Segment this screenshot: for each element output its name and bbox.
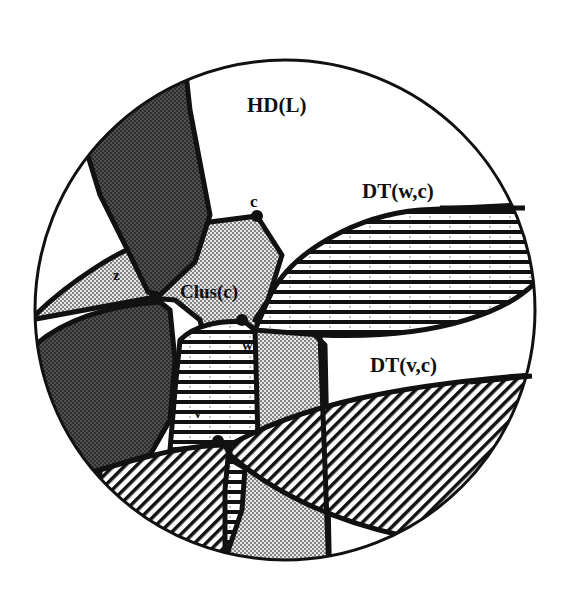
label-v: v: [194, 405, 202, 421]
point-w: [236, 314, 248, 326]
label-hd: HD(L): [247, 93, 307, 117]
dt-vc-region-left: [100, 445, 232, 590]
dt-wc-region: [255, 205, 545, 336]
label-z: z: [113, 267, 120, 283]
label-c: c: [250, 192, 258, 211]
point-v: [212, 435, 224, 447]
diagram: HD(L) DT(w,c) DT(v,c) Clus(c) c z w v: [0, 0, 565, 605]
label-dt-vc: DT(v,c): [370, 353, 437, 377]
point-c: [251, 210, 263, 222]
dark-region-upper: [80, 65, 210, 295]
label-w: w: [242, 337, 253, 353]
point-z: [149, 291, 161, 303]
label-clus: Clus(c): [180, 281, 238, 303]
label-dt-wc: DT(w,c): [362, 179, 434, 203]
